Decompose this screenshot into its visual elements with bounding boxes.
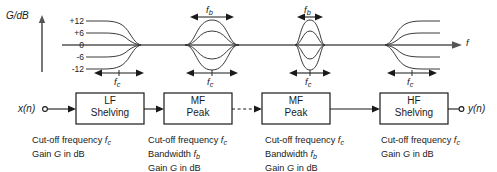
block-hf-shelving-label: HF Shelving (380, 95, 448, 119)
mf-peak-wide-cutoff-label: fc (207, 76, 213, 89)
mf-peak-2-caption: Cut-off frequency fc Bandwidth fb Gain G… (265, 134, 344, 172)
mf-peak-1-caption-line-3: Gain G in dB (148, 162, 227, 172)
mf-peak-2-caption-line-2: Bandwidth fb (265, 148, 344, 162)
wire-lf-to-mf1 (144, 106, 164, 113)
block-mf-peak-1-label: MF Peak (164, 95, 232, 119)
y-axis-label: G/dB (6, 10, 29, 21)
x-axis-label: f (466, 37, 469, 48)
input-terminal (43, 106, 76, 113)
hf-shelving-caption-line-1: Cut-off frequency fc (381, 134, 460, 148)
mf-peak-1-caption-line-1: Cut-off frequency fc (148, 134, 227, 148)
lf-shelving-caption-line-1: Cut-off frequency fc (32, 134, 111, 148)
input-signal-label: x(n) (18, 103, 35, 114)
lf-shelving-caption-line-2: Gain G in dB (32, 148, 111, 160)
lf-shelving-caption: Cut-off frequency fc Gain G in dB (32, 134, 111, 160)
hf-shelving-caption-line-2: Gain G in dB (381, 148, 460, 160)
wire-mf1-to-mf2-dashed (232, 106, 262, 113)
mf-peak-2-caption-line-3: Gain G in dB (265, 162, 344, 172)
block-mf-peak-2-label: MF Peak (262, 95, 330, 119)
mf-peak-narrow-cutoff-label: fc (305, 76, 311, 89)
y-tick-zero: 0 (52, 40, 84, 50)
eq-block-diagram-figure: G/dB +12 +6 0 -6 -12 f fc fb fc fb fc fc (0, 0, 497, 172)
hf-cutoff-label: fc (407, 76, 413, 89)
output-terminal (448, 107, 464, 112)
mf-peak-narrow-bandwidth-label: fb (304, 4, 311, 17)
lf-cutoff-label: fc (114, 76, 120, 89)
y-tick-minus6: -6 (52, 52, 84, 62)
mf-peak-1-caption: Cut-off frequency fc Bandwidth fb Gain G… (148, 134, 227, 172)
hf-shelving-caption: Cut-off frequency fc Gain G in dB (381, 134, 460, 160)
wire-mf2-to-hf (330, 106, 380, 113)
mf-peak-1-caption-line-2: Bandwidth fb (148, 148, 227, 162)
y-tick-minus12: -12 (52, 64, 84, 74)
f-axis-line (62, 41, 462, 49)
g-db-axis-arrow (39, 15, 45, 72)
block-lf-shelving-label: LF Shelving (76, 95, 144, 119)
mf-peak-wide-bandwidth-label: fb (206, 4, 213, 17)
y-tick-plus12: +12 (52, 16, 84, 26)
output-signal-label: y(n) (468, 103, 485, 114)
mf-peak-2-caption-line-1: Cut-off frequency fc (265, 134, 344, 148)
y-tick-plus6: +6 (52, 28, 84, 38)
